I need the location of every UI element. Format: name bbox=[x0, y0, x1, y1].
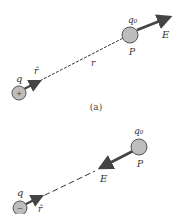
plus-sign: + bbox=[16, 88, 22, 99]
test-charge bbox=[122, 27, 138, 43]
panel-b: − q r̂ q₀ P E bbox=[13, 126, 147, 214]
test-charge bbox=[131, 139, 147, 155]
test-charge-label: q₀ bbox=[128, 15, 138, 25]
field-arrow bbox=[100, 151, 133, 168]
unit-vector-label: r̂ bbox=[38, 204, 43, 214]
electric-field-diagram: + q r̂ r q₀ P E (a) − q r̂ q₀ P E bbox=[0, 0, 191, 214]
panel-a: + q r̂ r q₀ P E (a) bbox=[12, 15, 170, 112]
panel-a-caption: (a) bbox=[90, 102, 102, 112]
source-charge-label: q bbox=[17, 187, 23, 198]
minus-sign: − bbox=[17, 203, 23, 214]
field-label: E bbox=[99, 173, 108, 184]
point-label: P bbox=[128, 47, 136, 57]
unit-vector-label: r̂ bbox=[34, 66, 39, 76]
unit-vector-arrow bbox=[24, 81, 40, 89]
field-label: E bbox=[161, 29, 170, 40]
source-charge-label: q bbox=[16, 73, 22, 84]
distance-label: r bbox=[91, 58, 96, 68]
point-label: P bbox=[136, 159, 144, 169]
test-charge-label: q₀ bbox=[134, 126, 144, 136]
